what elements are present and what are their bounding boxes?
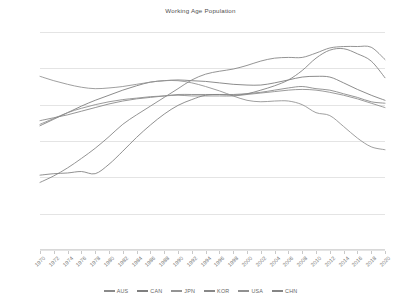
legend-label: CHN <box>285 288 297 294</box>
x-axis-tick <box>40 251 41 254</box>
x-axis-tick-labels: 1970197219741976197819801982198419861988… <box>40 251 385 281</box>
chart-legend: AUSCANJPNKORUSACHN <box>0 288 401 294</box>
series-line-jpn <box>40 76 385 149</box>
x-axis-tick <box>54 251 55 254</box>
legend-swatch-icon <box>104 290 115 291</box>
x-axis-tick <box>123 251 124 254</box>
series-lines <box>40 32 385 250</box>
x-axis-tick <box>192 251 193 254</box>
legend-swatch-icon <box>171 290 182 291</box>
series-line-kor <box>40 46 385 182</box>
legend-item-aus[interactable]: AUS <box>104 288 129 294</box>
x-axis-tick <box>150 251 151 254</box>
legend-label: USA <box>251 288 263 294</box>
legend-swatch-icon <box>238 290 249 291</box>
x-axis-tick <box>357 251 358 254</box>
line-chart: Working Age Population 75.0070.0065.0060… <box>0 0 401 301</box>
legend-label: CAN <box>150 288 162 294</box>
x-axis-line <box>40 249 385 250</box>
x-axis-tick <box>206 251 207 254</box>
x-axis-tick <box>316 251 317 254</box>
chart-title: Working Age Population <box>0 7 401 14</box>
legend-item-chn[interactable]: CHN <box>272 288 297 294</box>
x-axis-tick <box>247 251 248 254</box>
x-axis-tick <box>68 251 69 254</box>
x-axis-tick <box>233 251 234 254</box>
legend-item-can[interactable]: CAN <box>137 288 162 294</box>
legend-swatch-icon <box>137 290 148 291</box>
x-axis-tick <box>109 251 110 254</box>
x-axis-tick <box>371 251 372 254</box>
x-axis-tick <box>178 251 179 254</box>
legend-swatch-icon <box>204 290 215 291</box>
x-axis-tick <box>219 251 220 254</box>
x-axis-tick <box>344 251 345 254</box>
x-axis-tick <box>330 251 331 254</box>
x-axis-tick <box>385 251 386 254</box>
x-axis-tick <box>164 251 165 254</box>
x-axis-tick <box>81 251 82 254</box>
legend-swatch-icon <box>272 290 283 291</box>
x-axis-tick <box>95 251 96 254</box>
legend-item-usa[interactable]: USA <box>238 288 263 294</box>
plot-area <box>40 32 385 250</box>
x-axis-tick <box>288 251 289 254</box>
series-line-chn <box>40 48 385 175</box>
legend-item-kor[interactable]: KOR <box>204 288 229 294</box>
x-axis-tick <box>302 251 303 254</box>
x-axis-tick <box>261 251 262 254</box>
series-line-aus <box>40 86 385 120</box>
legend-item-jpn[interactable]: JPN <box>171 288 195 294</box>
x-axis-tick <box>137 251 138 254</box>
legend-label: AUS <box>117 288 129 294</box>
legend-label: JPN <box>184 288 195 294</box>
legend-label: KOR <box>217 288 229 294</box>
x-axis-tick <box>275 251 276 254</box>
